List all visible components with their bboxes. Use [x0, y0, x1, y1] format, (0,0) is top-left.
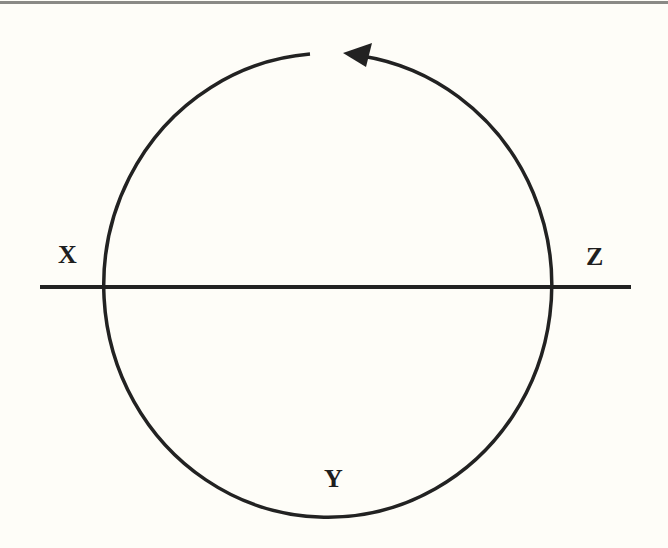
label-x: X — [58, 242, 77, 268]
diagram-canvas: X Z Y — [0, 0, 668, 548]
label-z: Z — [586, 244, 603, 270]
label-y: Y — [324, 466, 343, 492]
arrowhead-icon — [343, 43, 372, 67]
